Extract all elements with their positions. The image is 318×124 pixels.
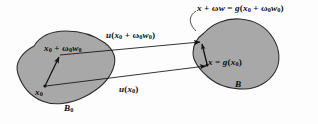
sym-paren-close: )	[281, 3, 284, 13]
label-source-point-offset: x0 + ω0w0	[44, 44, 82, 53]
sym-sub-0c: 0	[78, 46, 81, 53]
sym-B: B	[235, 79, 241, 89]
sym-paren-close: )	[135, 84, 138, 94]
figure-canvas	[0, 0, 318, 124]
sym-paren-close: )	[152, 30, 155, 40]
sym-sub-0: 0	[70, 106, 73, 113]
sym-equals: =	[213, 57, 223, 67]
sym-omega: ω	[212, 3, 219, 13]
sym-plus-2: +	[251, 3, 261, 13]
label-deformed-body: B	[235, 80, 241, 89]
label-reference-body: B0	[64, 104, 73, 113]
label-upper-displacement: u(x0 + ω0w0)	[106, 31, 155, 40]
sym-sub-0: 0	[40, 90, 43, 97]
top-label-leader-line	[190, 11, 196, 31]
sym-plus: +	[122, 30, 132, 40]
label-top-mapped-point: x + ωw = g(x0 + ω0w0)	[197, 4, 284, 13]
reference-body-blob	[17, 31, 115, 104]
sym-paren-close: )	[239, 57, 242, 67]
sym-plus: +	[52, 43, 62, 53]
label-source-point: x0	[35, 88, 43, 97]
sym-omega: ω	[62, 43, 69, 53]
sym-plus: +	[202, 3, 212, 13]
label-lower-displacement: u(x0)	[119, 85, 139, 94]
label-image-point: x = g(x0)	[208, 58, 242, 67]
sym-omega-0: ω	[261, 3, 268, 13]
sym-equals: =	[225, 3, 235, 13]
deformation-figure: x + ωw = g(x0 + ω0w0) u(x0 + ω0w0) x0 + …	[0, 0, 318, 124]
